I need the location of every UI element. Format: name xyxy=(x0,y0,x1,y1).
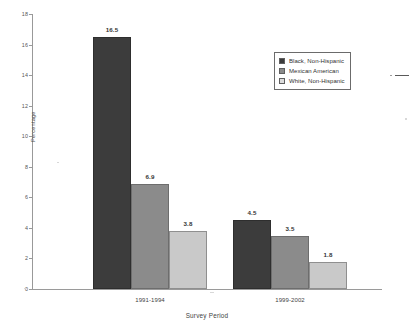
scan-artifact-dash xyxy=(395,75,409,76)
scan-artifact-dot xyxy=(390,75,392,76)
legend-item-label: Mexican American xyxy=(289,68,339,74)
scan-speck xyxy=(405,118,407,120)
bar xyxy=(271,236,309,289)
legend-item-white-non-hispanic: White, Non-Hispanic xyxy=(279,76,345,86)
chart-legend: Black, Non-Hispanic Mexican American Whi… xyxy=(274,52,351,90)
y-axis-tick-label: 4 xyxy=(6,223,28,233)
legend-item-black-non-hispanic: Black, Non-Hispanic xyxy=(279,56,345,66)
bar xyxy=(309,262,347,290)
legend-item-label: Black, Non-Hispanic xyxy=(289,58,344,64)
y-axis-tick-mark xyxy=(29,289,32,290)
legend-swatch-icon xyxy=(279,78,285,84)
bar-value-label: 3.8 xyxy=(169,220,207,227)
bar-value-label: 1.8 xyxy=(309,251,347,258)
bar-value-label: 3.5 xyxy=(271,225,309,232)
bar xyxy=(131,184,169,289)
y-axis-tick-label: 8 xyxy=(6,162,28,172)
legend-item-label: White, Non-Hispanic xyxy=(289,78,345,84)
bar-value-label: 4.5 xyxy=(233,209,271,216)
legend-swatch-icon xyxy=(279,68,285,74)
x-axis-tick-label: 1991-1994 xyxy=(110,297,190,303)
y-axis-tick-label: 10 xyxy=(6,131,28,141)
scan-speck xyxy=(24,288,27,289)
legend-swatch-icon xyxy=(279,58,285,64)
y-axis-tick-label: 16 xyxy=(6,40,28,50)
y-axis-tick-label: 0 xyxy=(6,284,28,294)
bar-value-label: 6.9 xyxy=(131,173,169,180)
scan-speck xyxy=(210,292,214,293)
x-axis-tick-label: 1999-2002 xyxy=(250,297,330,303)
bar xyxy=(169,231,207,289)
scan-speck xyxy=(57,162,59,163)
y-axis-tick-label: 2 xyxy=(6,253,28,263)
x-axis-title: Survey Period xyxy=(32,312,382,319)
y-axis-tick-label: 14 xyxy=(6,70,28,80)
x-axis-line xyxy=(32,289,382,290)
legend-item-mexican-american: Mexican American xyxy=(279,66,345,76)
bar xyxy=(93,37,131,289)
bar-value-label: 16.5 xyxy=(93,26,131,33)
y-axis-tick-label: 12 xyxy=(6,101,28,111)
y-axis-tick-label: 18 xyxy=(6,9,28,19)
bar-chart: Percentage 024681012141618 16.56.93.84.5… xyxy=(0,0,413,330)
bar xyxy=(233,220,271,289)
y-axis-tick-label: 6 xyxy=(6,192,28,202)
scan-artifact-arrow xyxy=(390,74,409,78)
